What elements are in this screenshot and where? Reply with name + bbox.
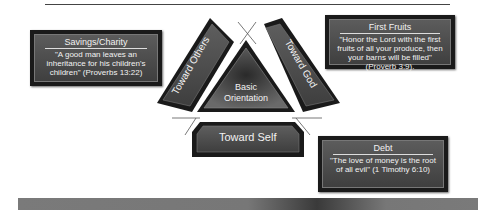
debt-box: Debt "The love of money is the root of a… [318,136,448,192]
savings-text: "A good man leaves an inheritance for hi… [41,50,151,77]
first-fruits-text: "Honor the Lord with the first fruits of… [336,35,444,71]
bottom-bar [18,198,478,210]
savings-title: Savings/Charity [45,37,147,49]
center-line2: Orientation [205,93,287,104]
center-label: Basic Orientation [205,82,287,104]
segment-toward-self: Toward Self [219,131,276,143]
center-line1: Basic [205,82,287,93]
first-fruits-box: First Fruits "Honor the Lord with the fi… [325,15,455,69]
first-fruits-title: First Fruits [340,22,440,34]
debt-title: Debt [333,143,433,155]
savings-charity-box: Savings/Charity "A good man leaves an in… [30,30,162,86]
debt-text: "The love of money is the root of all ev… [329,156,437,174]
